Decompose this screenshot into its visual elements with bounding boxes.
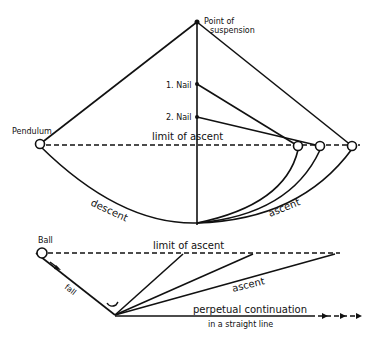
- arrow-icon: [322, 313, 328, 319]
- suspension-label-1: Point of: [204, 17, 234, 26]
- nail1-point: [195, 82, 199, 86]
- curve-mark-icon: [107, 302, 118, 306]
- nail2-point: [195, 115, 199, 119]
- ascent-label: ascent: [267, 196, 302, 219]
- perpetual-label-2: in a straight line: [208, 320, 273, 329]
- ball-label: Ball: [38, 236, 53, 245]
- arrow-icon: [356, 313, 362, 319]
- arrow-icon: [340, 313, 346, 319]
- lower-ascent-label: ascent: [231, 275, 266, 294]
- nail2-label: 2. Nail: [166, 113, 192, 122]
- perpetual-label-1: perpetual continuation: [193, 304, 307, 315]
- nail1-label: 1. Nail: [166, 81, 192, 90]
- pendulum-bob-right: [348, 142, 357, 151]
- lower-limit-label: limit of ascent: [153, 240, 224, 251]
- pendulum-label: Pendulum: [12, 127, 52, 136]
- limit-of-ascent-label: limit of ascent: [152, 131, 223, 142]
- ball: [37, 248, 47, 258]
- pendulum-string-right: [197, 22, 352, 146]
- pendulum-bob-left: [36, 140, 45, 149]
- pendulum-bob-nail1: [294, 142, 303, 151]
- arc-nail2: [197, 150, 320, 223]
- descent-label: descent: [89, 197, 130, 224]
- suspension-point: [195, 20, 200, 25]
- pendulum-bob-nail2: [316, 142, 325, 151]
- pendulum-ball-diagram: Point of suspension 1. Nail 2. Nail Pend…: [0, 0, 371, 342]
- lower-ball-diagram: Ball limit of ascent fall ascent perpetu…: [36, 236, 362, 329]
- upper-pendulum-diagram: Point of suspension 1. Nail 2. Nail Pend…: [12, 17, 360, 225]
- suspension-label-2: suspension: [210, 26, 255, 35]
- arc-main: [40, 146, 352, 223]
- fall-slope: [36, 253, 115, 315]
